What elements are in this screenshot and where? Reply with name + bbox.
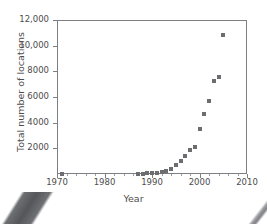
data-point	[183, 154, 187, 158]
x-axis-minor-tick-mark	[190, 174, 191, 176]
data-point	[145, 171, 149, 175]
data-point	[164, 169, 168, 173]
data-point	[212, 79, 216, 83]
data-point	[169, 167, 173, 171]
x-axis-minor-tick-mark	[171, 174, 172, 176]
data-point	[160, 170, 164, 174]
x-axis-minor-tick-mark	[162, 174, 163, 176]
data-point	[141, 172, 145, 176]
x-axis-minor-tick-mark	[86, 174, 87, 176]
x-axis-minor-tick-mark	[133, 174, 134, 176]
x-axis-minor-tick-mark	[181, 174, 182, 176]
y-axis-tick-mark	[53, 97, 57, 98]
y-axis-tick-mark	[53, 71, 57, 72]
data-point	[193, 145, 197, 149]
plot-area	[57, 20, 247, 174]
y-axis-tick-mark	[53, 148, 57, 149]
data-point	[60, 172, 64, 176]
x-axis-title: Year	[0, 193, 267, 204]
x-axis-tick-label: 2000	[189, 177, 211, 187]
data-point	[198, 127, 202, 131]
x-axis-minor-tick-mark	[238, 174, 239, 176]
data-point	[221, 33, 225, 37]
scatter-chart: 200040006000800010,00012,000 Total numbe…	[0, 0, 267, 224]
y-axis-tick-mark	[53, 20, 57, 21]
x-axis-tick-label: 1970	[46, 177, 68, 187]
data-point	[217, 75, 221, 79]
x-axis-tick-label: 2010	[236, 177, 258, 187]
x-axis-minor-tick-mark	[209, 174, 210, 176]
data-point	[155, 171, 159, 175]
x-axis-minor-tick-mark	[76, 174, 77, 176]
data-point	[136, 172, 140, 176]
x-axis-minor-tick-mark	[95, 174, 96, 176]
x-axis-minor-tick-mark	[124, 174, 125, 176]
x-axis-minor-tick-mark	[219, 174, 220, 176]
data-point	[150, 171, 154, 175]
x-axis-minor-tick-mark	[228, 174, 229, 176]
y-axis-tick-mark	[53, 123, 57, 124]
y-axis-tick-mark	[53, 46, 57, 47]
data-point	[207, 99, 211, 103]
x-axis-minor-tick-mark	[114, 174, 115, 176]
y-axis-title: Total number of locations	[15, 12, 31, 172]
data-point	[202, 112, 206, 116]
data-point	[188, 148, 192, 152]
data-point	[174, 163, 178, 167]
x-axis-tick-label: 1990	[141, 177, 163, 187]
data-point	[179, 159, 183, 163]
x-axis-tick-label: 1980	[94, 177, 116, 187]
x-axis-minor-tick-mark	[67, 174, 68, 176]
